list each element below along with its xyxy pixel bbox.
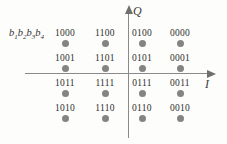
- constellation-point-dot: [102, 65, 109, 72]
- constellation-point-label: 0011: [170, 79, 190, 89]
- quadrature-axis-arrow-icon: [125, 5, 133, 14]
- constellation-point-label: 0010: [170, 104, 190, 114]
- constellation-point-dot: [139, 115, 146, 122]
- constellation-point-label: 0110: [132, 104, 152, 114]
- bit-index: 4: [41, 33, 45, 41]
- constellation-point-label: 0001: [170, 54, 190, 64]
- constellation-point-dot: [139, 65, 146, 72]
- constellation-point-label: 1111: [95, 79, 114, 89]
- bit-order-annotation: b1b2b3b4: [9, 28, 44, 41]
- constellation-point-label: 0101: [132, 54, 152, 64]
- constellation-point-label: 1101: [95, 54, 115, 64]
- constellation-point-label: 1011: [55, 79, 75, 89]
- constellation-point-label: 0111: [132, 79, 152, 89]
- constellation-point-label: 1001: [55, 54, 75, 64]
- quadrature-axis-label: Q: [133, 5, 142, 17]
- constellation-point-dot: [62, 115, 69, 122]
- constellation-point-label: 1110: [95, 104, 115, 114]
- constellation-point-dot: [102, 40, 109, 47]
- constellation-point-dot: [177, 115, 184, 122]
- constellation-point-dot: [102, 90, 109, 97]
- constellation-point-dot: [177, 90, 184, 97]
- constellation-point-label: 1010: [55, 104, 75, 114]
- constellation-point-dot: [139, 90, 146, 97]
- in-phase-axis-label: I: [205, 78, 209, 90]
- constellation-point-dot: [139, 40, 146, 47]
- constellation-point-dot: [62, 65, 69, 72]
- constellation-point-dot: [62, 40, 69, 47]
- constellation-diagram: I Q b1b2b3b4 100011000100000010011101010…: [0, 0, 227, 144]
- quadrature-axis-line: [128, 11, 129, 138]
- constellation-point-dot: [177, 40, 184, 47]
- constellation-point-label: 1100: [95, 29, 115, 39]
- constellation-point-label: 1000: [55, 29, 75, 39]
- constellation-point-label: 0100: [132, 29, 152, 39]
- constellation-point-dot: [177, 65, 184, 72]
- constellation-point-dot: [102, 115, 109, 122]
- in-phase-axis-line: [25, 73, 210, 74]
- constellation-point-label: 0000: [170, 29, 190, 39]
- constellation-point-dot: [62, 90, 69, 97]
